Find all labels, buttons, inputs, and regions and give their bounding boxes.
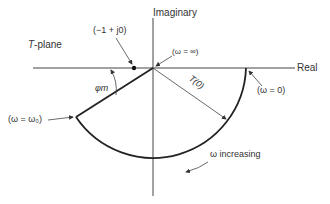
nyquist-arc [76, 68, 246, 158]
nyquist-diagram: T-plane Imaginary Real (−1 + j0) (ω = ∞)… [0, 0, 330, 204]
omega-infinity-label: (ω = ∞) [172, 48, 198, 56]
omega-infinity-arrow [156, 56, 172, 66]
imaginary-label: Imaginary [153, 8, 197, 18]
omega0-label: (ω = ω₀) [8, 115, 42, 124]
plane-title: T-plane [28, 40, 62, 50]
omega-increasing-arrow [186, 162, 208, 172]
omega-zero-arrow [249, 71, 262, 86]
critical-point-arrow [116, 38, 132, 64]
omega-increasing-label: ω increasing [210, 150, 261, 159]
critical-point-label: (−1 + j0) [93, 26, 127, 35]
omega-zero-label: (ω = 0) [257, 86, 285, 95]
phase-margin-label: φm [95, 84, 108, 93]
real-label: Real [297, 63, 318, 73]
plane-title-rest: -plane [34, 39, 62, 50]
critical-point [132, 66, 136, 70]
phase-line [76, 68, 153, 117]
diagram-graphics [0, 0, 330, 204]
omega0-arrow [48, 117, 73, 120]
